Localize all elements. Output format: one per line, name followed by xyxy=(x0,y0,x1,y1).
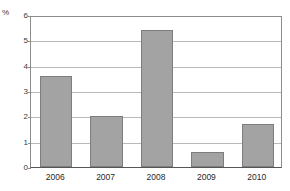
x-axis-tick-label: 2007 xyxy=(80,172,130,182)
y-axis-tick-mark xyxy=(28,143,31,144)
plot-area xyxy=(30,16,282,168)
y-axis-tick-mark xyxy=(28,16,31,17)
y-axis-tick-label: 0 xyxy=(6,164,28,172)
y-axis-tick-mark xyxy=(28,117,31,118)
y-axis-tick-label: 2 xyxy=(6,113,28,121)
gridline xyxy=(31,16,281,17)
y-axis-tick-mark xyxy=(28,67,31,68)
y-axis-tick-mark xyxy=(28,41,31,42)
y-axis-tick-label: 6 xyxy=(6,12,28,20)
y-axis-tick-label: 5 xyxy=(6,37,28,45)
bar-chart: % 0123456 20062007200820092010 xyxy=(0,0,290,191)
y-axis-tick-label: 1 xyxy=(6,139,28,147)
y-axis-tick-mark xyxy=(28,168,31,169)
y-axis-tick-mark xyxy=(28,92,31,93)
x-axis-tick-label: 2010 xyxy=(232,172,282,182)
bar xyxy=(141,30,174,167)
bar xyxy=(191,152,224,167)
bar xyxy=(90,116,123,167)
x-axis-tick-label: 2006 xyxy=(30,172,80,182)
y-axis-tick-label: 3 xyxy=(6,88,28,96)
y-axis-tick-label: 4 xyxy=(6,63,28,71)
x-axis-tick-label: 2009 xyxy=(181,172,231,182)
x-axis-tick-label: 2008 xyxy=(131,172,181,182)
bar xyxy=(242,124,275,167)
bar xyxy=(40,76,73,167)
